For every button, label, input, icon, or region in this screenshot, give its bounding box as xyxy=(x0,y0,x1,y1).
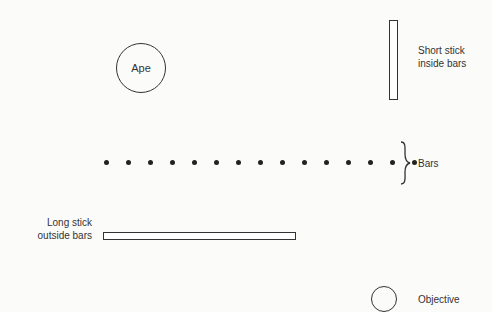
short-stick-label: Short stick inside bars xyxy=(418,44,466,70)
brace-icon xyxy=(398,140,414,186)
bar-dot xyxy=(346,160,351,165)
long-stick-label-line1: Long stick xyxy=(30,216,92,229)
bars-label: Bars xyxy=(418,157,439,170)
short-stick-label-line2: inside bars xyxy=(418,57,466,70)
bar-dot xyxy=(170,160,175,165)
bar-dot xyxy=(258,160,263,165)
bar-dot xyxy=(236,160,241,165)
bar-dot xyxy=(126,160,131,165)
bar-dot xyxy=(302,160,307,165)
long-stick-label-line2: outside bars xyxy=(30,229,92,242)
bar-dot xyxy=(148,160,153,165)
ape-circle: Ape xyxy=(116,43,166,93)
bar-dot xyxy=(214,160,219,165)
bar-dot xyxy=(192,160,197,165)
bar-dot xyxy=(104,160,109,165)
bar-dot xyxy=(324,160,329,165)
long-stick xyxy=(103,232,296,240)
short-stick-label-line1: Short stick xyxy=(418,44,466,57)
long-stick-label: Long stick outside bars xyxy=(30,216,92,242)
short-stick xyxy=(389,20,398,100)
bar-dot xyxy=(280,160,285,165)
objective-label: Objective xyxy=(418,293,460,306)
ape-label: Ape xyxy=(131,62,151,74)
bar-dot xyxy=(390,160,395,165)
objective-circle xyxy=(371,286,397,312)
bar-dot xyxy=(368,160,373,165)
